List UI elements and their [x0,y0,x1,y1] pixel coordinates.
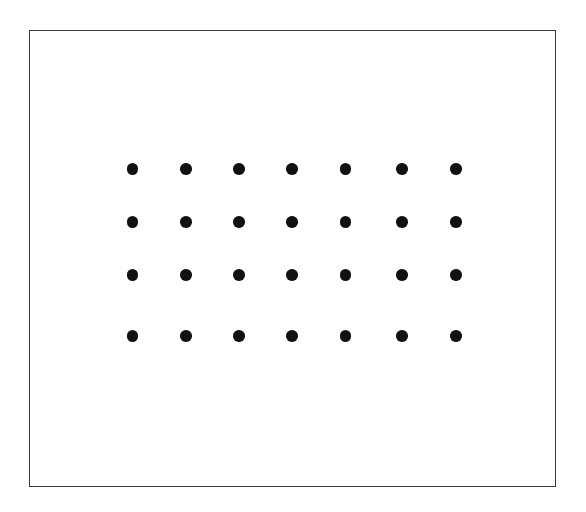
grid-dot [450,330,462,342]
grid-dot [127,269,139,281]
grid-dot [127,330,139,342]
grid-dot [233,269,245,281]
grid-dot [396,269,408,281]
grid-dot [180,330,192,342]
grid-dot [396,216,408,228]
grid-dot [340,163,352,175]
figure-canvas [0,0,586,512]
grid-dot [396,163,408,175]
grid-dot [180,216,192,228]
grid-dot [180,269,192,281]
grid-dot [233,330,245,342]
grid-dot [396,330,408,342]
grid-dot [233,163,245,175]
grid-dot [340,330,352,342]
grid-dot [450,163,462,175]
grid-dot [127,163,139,175]
grid-dot [286,330,298,342]
grid-dot [450,269,462,281]
grid-dot [286,163,298,175]
grid-dot [450,216,462,228]
grid-dot [286,216,298,228]
bounding-rectangle [29,30,556,487]
grid-dot [233,216,245,228]
grid-dot [340,269,352,281]
grid-dot [340,216,352,228]
grid-dot [180,163,192,175]
grid-dot [286,269,298,281]
dot-grid [30,31,555,486]
grid-dot [127,216,139,228]
